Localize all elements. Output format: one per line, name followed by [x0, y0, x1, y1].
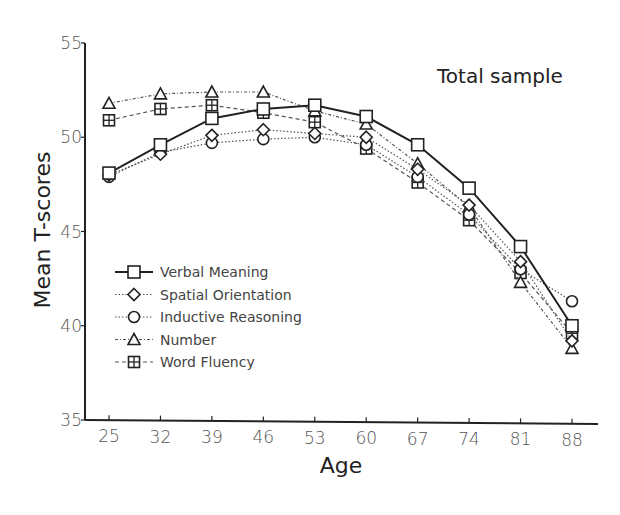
- triangle-legend-icon: [128, 334, 140, 345]
- legend-item: Inductive Reasoning: [115, 309, 302, 325]
- x-tick-label: 39: [201, 427, 223, 447]
- boxed-plus-marker-icon: [155, 103, 166, 114]
- boxed-plus-marker-icon: [309, 117, 320, 128]
- x-axis-title: Age: [320, 453, 363, 478]
- square-marker-icon: [515, 241, 527, 253]
- legend: Verbal MeaningSpatial OrientationInducti…: [115, 264, 302, 370]
- series-inductive-reasoning: [104, 132, 578, 307]
- square-marker-icon: [412, 139, 424, 151]
- square-marker-icon: [257, 103, 269, 115]
- x-tick-label: 60: [355, 428, 377, 448]
- x-tick-label: 88: [561, 430, 583, 450]
- x-tick-label: 74: [458, 429, 480, 449]
- y-tick-label: 55: [60, 33, 82, 53]
- circle-marker-icon: [567, 296, 578, 307]
- diamond-marker-icon: [257, 124, 269, 136]
- boxed-plus-legend-icon: [129, 357, 140, 368]
- square-marker-icon: [103, 167, 115, 179]
- square-marker-icon: [360, 111, 372, 123]
- legend-item: Number: [115, 332, 216, 348]
- line-chart: 354045505525323946536067748188 Total sam…: [0, 0, 620, 515]
- y-tick-label: 35: [60, 410, 82, 430]
- x-tick-label: 53: [304, 428, 326, 448]
- legend-label: Inductive Reasoning: [160, 309, 302, 325]
- square-marker-icon: [206, 112, 218, 124]
- legend-label: Word Fluency: [160, 354, 255, 370]
- x-tick-label: 25: [98, 426, 120, 446]
- legend-label: Number: [160, 332, 216, 348]
- square-marker-icon: [566, 320, 578, 332]
- boxed-plus-marker-icon: [104, 115, 115, 126]
- square-marker-icon: [309, 99, 321, 111]
- diamond-legend-icon: [128, 289, 140, 301]
- triangle-marker-icon: [206, 86, 218, 97]
- y-tick-label: 50: [60, 127, 82, 147]
- legend-label: Spatial Orientation: [160, 287, 292, 303]
- x-tick-label: 32: [150, 427, 172, 447]
- x-tick-label: 46: [253, 427, 275, 447]
- chart-title: Total sample: [436, 64, 563, 88]
- x-tick-label: 81: [510, 429, 532, 449]
- y-tick-label: 45: [60, 222, 82, 242]
- square-legend-icon: [128, 266, 140, 278]
- triangle-marker-icon: [257, 86, 269, 97]
- x-tick-label: 67: [407, 429, 429, 449]
- square-marker-icon: [154, 139, 166, 151]
- y-axis-title: Mean T-scores: [30, 152, 55, 309]
- triangle-marker-icon: [103, 97, 115, 108]
- square-marker-icon: [463, 182, 475, 194]
- boxed-plus-marker-icon: [206, 100, 217, 111]
- legend-item: Verbal Meaning: [115, 264, 268, 280]
- legend-item: Word Fluency: [115, 354, 255, 370]
- y-tick-label: 40: [60, 316, 82, 336]
- circle-legend-icon: [129, 312, 140, 323]
- legend-label: Verbal Meaning: [160, 264, 268, 280]
- legend-item: Spatial Orientation: [115, 287, 292, 303]
